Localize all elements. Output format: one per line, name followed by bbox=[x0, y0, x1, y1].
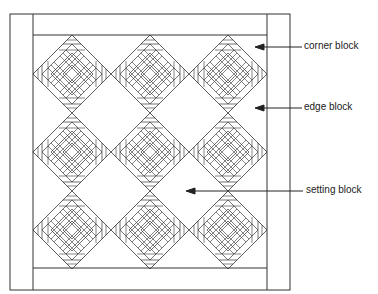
setting-block-label: setting block bbox=[306, 184, 362, 195]
setting-arrow-head bbox=[186, 188, 195, 194]
corner-arrow-head bbox=[255, 44, 264, 50]
edge-arrow-head bbox=[255, 105, 264, 111]
edge-block-label: edge block bbox=[304, 101, 352, 112]
quilt-blocks bbox=[33, 35, 267, 269]
corner-block-label: corner block bbox=[304, 40, 358, 51]
